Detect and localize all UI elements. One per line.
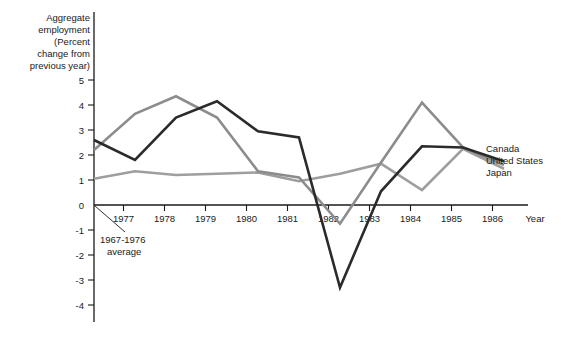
y-tick-label-5: 5	[79, 75, 84, 86]
legend-item-united-states: United States	[486, 155, 543, 166]
x-axis-ticks: 1977 1978 1979 1980 1981 1982 1983 1984 …	[113, 205, 503, 224]
baseline-annotation-line-1: 1967-1976	[100, 234, 145, 245]
x-tick-label-1980: 1980	[236, 213, 257, 224]
x-tick-label-1981: 1981	[277, 213, 298, 224]
y-axis-title-line-1: Aggregate	[46, 12, 90, 23]
series-line-japan	[94, 149, 504, 190]
x-tick-label-1978: 1978	[154, 213, 175, 224]
y-axis-title-line-4: change from	[37, 48, 90, 59]
y-axis-title-line-3: (Percent	[54, 36, 90, 47]
legend: Canada United States Japan	[486, 143, 543, 178]
series-line-canada	[94, 101, 504, 287]
x-tick-label-1977: 1977	[113, 213, 134, 224]
chart-figure: Aggregate employment (Percent change fro…	[0, 0, 572, 337]
x-tick-label-1986: 1986	[482, 213, 503, 224]
x-tick-label-1984: 1984	[400, 213, 421, 224]
y-tick-label-neg1: -1	[76, 225, 84, 236]
y-tick-label-4: 4	[79, 100, 84, 111]
series-group	[94, 96, 504, 287]
y-tick-label-3: 3	[79, 125, 84, 136]
legend-item-canada: Canada	[486, 143, 520, 154]
y-tick-label-0: 0	[79, 200, 84, 211]
y-tick-label-neg3: -3	[76, 275, 84, 286]
legend-item-japan: Japan	[486, 167, 512, 178]
x-tick-label-1979: 1979	[195, 213, 216, 224]
baseline-annotation-line-2: average	[107, 246, 141, 257]
aggregate-employment-line-chart: Aggregate employment (Percent change fro…	[0, 0, 572, 337]
y-axis-ticks: 5 4 3 2 1 0 -1 -2 -3 -4	[76, 75, 94, 311]
y-tick-label-neg2: -2	[76, 250, 84, 261]
y-tick-label-2: 2	[79, 150, 84, 161]
y-axis-title-line-5: previous year)	[30, 60, 90, 71]
x-tick-label-1985: 1985	[441, 213, 462, 224]
y-axis-title: Aggregate employment (Percent change fro…	[30, 12, 91, 71]
y-axis-title-line-2: employment	[38, 24, 90, 35]
x-axis-title: Year	[525, 213, 544, 224]
y-tick-label-neg4: -4	[76, 300, 84, 311]
y-tick-label-1: 1	[79, 175, 84, 186]
